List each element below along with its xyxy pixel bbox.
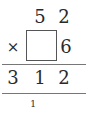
answer-blank-box[interactable] bbox=[26, 30, 57, 61]
carry-divider-line bbox=[2, 93, 86, 94]
carry-digit: 1 bbox=[28, 100, 38, 109]
multiply-sign: × bbox=[6, 38, 20, 56]
product-tens-digit: 1 bbox=[33, 69, 47, 87]
multiplicand-ones-digit: 2 bbox=[57, 8, 71, 26]
product-hundreds-digit: 3 bbox=[6, 69, 20, 87]
product-ones-digit: 2 bbox=[57, 69, 71, 87]
multiplier-ones-digit: 6 bbox=[59, 38, 73, 56]
product-divider-line bbox=[2, 64, 86, 65]
multiplicand-tens-digit: 5 bbox=[33, 8, 47, 26]
